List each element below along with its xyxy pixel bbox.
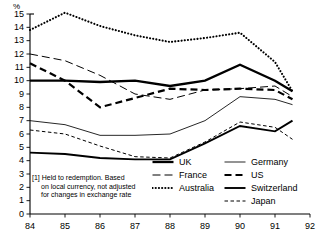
legend-label-us: US: [251, 170, 264, 180]
series-line-germany: [30, 97, 293, 136]
legend-item-australia[interactable]: Australia: [152, 181, 214, 194]
footnote-line-2: on local currency, not adjusted: [32, 183, 157, 192]
footnote-line-1: [1] Held to redemption. Based: [32, 174, 157, 183]
legend-label-switzerland: Switzerland: [251, 183, 298, 193]
legend-swatch-uk-icon: [152, 157, 174, 167]
legend-label-australia: Australia: [179, 183, 214, 193]
legend-item-japan[interactable]: Japan: [224, 194, 298, 207]
legend-label-france: France: [179, 170, 207, 180]
series-lines: [30, 13, 293, 160]
series-line-switzerland: [30, 121, 293, 160]
legend-label-uk: UK: [179, 157, 192, 167]
legend-item-uk[interactable]: UK: [152, 155, 214, 168]
legend-item-france[interactable]: France: [152, 168, 214, 181]
legend-label-japan: Japan: [251, 196, 276, 206]
legend-column-left: UKFranceAustralia: [152, 155, 214, 194]
legend-column-right: GermanyUSSwitzerlandJapan: [224, 155, 298, 207]
legend-label-germany: Germany: [251, 157, 288, 167]
legend-swatch-japan-icon: [224, 196, 246, 206]
footnote-line-3: for changes in exchange rate: [32, 191, 157, 200]
series-line-australia: [30, 13, 293, 92]
legend-swatch-france-icon: [152, 170, 174, 180]
legend-item-germany[interactable]: Germany: [224, 155, 298, 168]
legend-swatch-australia-icon: [152, 183, 174, 193]
footnote: [1] Held to redemption. Based on local c…: [32, 174, 157, 200]
series-line-france: [30, 54, 293, 99]
legend-item-switzerland[interactable]: Switzerland: [224, 181, 298, 194]
legend-swatch-us-icon: [224, 170, 246, 180]
bond-yield-line-chart: % 1514131211109876543210 848586878889909…: [0, 0, 322, 237]
legend-item-us[interactable]: US: [224, 168, 298, 181]
legend-swatch-germany-icon: [224, 157, 246, 167]
legend-swatch-switzerland-icon: [224, 183, 246, 193]
